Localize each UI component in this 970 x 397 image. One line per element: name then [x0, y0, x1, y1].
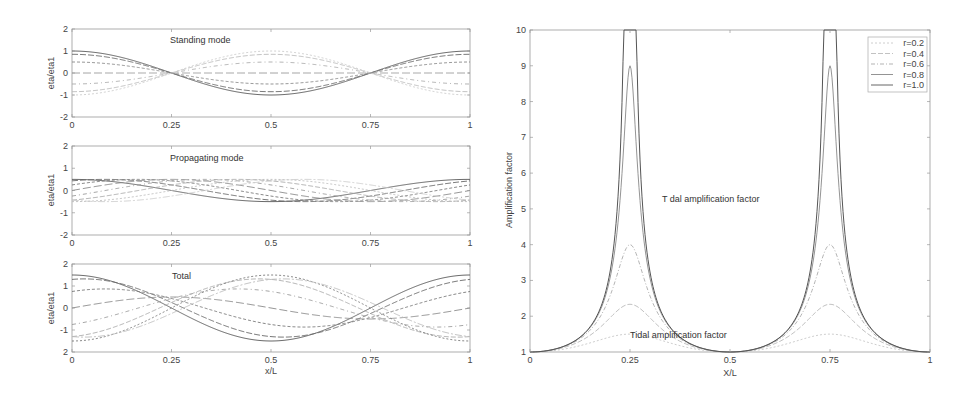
- legend: r=0.2r=0.4r=0.6r=0.8r=1.0: [868, 37, 927, 92]
- y-tick-label: -2: [60, 112, 68, 122]
- total-plot: 00.250.50.7512-1012 Total eta/eta1 x/L: [46, 259, 473, 376]
- x-tick-label: 0.75: [362, 355, 380, 365]
- annotation-total: Total: [172, 271, 191, 281]
- standing-mode-plot: 00.250.50.751-2-1012 Standing mode eta/e…: [46, 24, 473, 130]
- y-tick-label: 1: [63, 163, 68, 173]
- amplification-factor-plot: 00.250.50.75112345678910 T dal amplifica…: [504, 25, 933, 378]
- ylabel-amplification: Amplification factor: [504, 152, 514, 228]
- x-tick-label: 0.5: [265, 355, 278, 365]
- y-tick-label: 2: [63, 24, 68, 34]
- x-tick-label: 0: [527, 355, 532, 365]
- y-tick-label: 4: [521, 240, 526, 250]
- ylabel-total: eta/eta1: [46, 292, 56, 325]
- x-tick-label: 0.5: [265, 238, 278, 248]
- annotation-amplification-upper: T dal amplification factor: [662, 194, 759, 204]
- y-tick-label: 0: [63, 186, 68, 196]
- legend-entry: r=0.2: [903, 38, 924, 48]
- xlabel-amplification: X/L: [723, 368, 737, 378]
- x-tick-label: 0: [69, 238, 74, 248]
- y-tick-label: 7: [521, 132, 526, 142]
- x-tick-label: 0: [69, 120, 74, 130]
- x-tick-label: 1: [467, 238, 472, 248]
- y-tick-label: 2: [63, 141, 68, 151]
- y-tick-label: -1: [60, 208, 68, 218]
- y-tick-label: 0: [63, 303, 68, 313]
- y-tick-label: 6: [521, 168, 526, 178]
- x-tick-label: 0: [69, 355, 74, 365]
- y-tick-label: 5: [521, 204, 526, 214]
- x-tick-label: 0.75: [362, 238, 380, 248]
- annotation-propagating: Propagating mode: [170, 153, 244, 163]
- x-tick-label: 0.25: [163, 120, 181, 130]
- y-tick-label: 3: [521, 275, 526, 285]
- x-tick-label: 0.25: [163, 238, 181, 248]
- y-tick-label: 2: [521, 311, 526, 321]
- y-tick-label: 8: [521, 97, 526, 107]
- legend-entry: r=1.0: [903, 80, 924, 90]
- y-tick-label: 2: [63, 347, 68, 357]
- y-tick-label: 0: [63, 68, 68, 78]
- ylabel-propagating: eta/eta1: [46, 174, 56, 207]
- y-tick-label: -2: [60, 230, 68, 240]
- y-tick-label: 1: [63, 281, 68, 291]
- x-tick-label: 0.75: [821, 355, 839, 365]
- y-tick-label: -1: [60, 90, 68, 100]
- x-tick-label: 1: [927, 355, 932, 365]
- xlabel-total: x/L: [265, 366, 277, 376]
- legend-entry: r=0.4: [903, 49, 924, 59]
- x-tick-label: 0.5: [265, 120, 278, 130]
- y-tick-label: 9: [521, 61, 526, 71]
- x-tick-label: 0.25: [163, 355, 181, 365]
- x-tick-label: 1: [467, 120, 472, 130]
- y-tick-label: 1: [521, 347, 526, 357]
- y-tick-label: -1: [60, 325, 68, 335]
- y-tick-label: 10: [516, 25, 526, 35]
- x-tick-label: 0.5: [724, 355, 737, 365]
- x-tick-label: 0.75: [362, 120, 380, 130]
- y-tick-label: 2: [63, 259, 68, 269]
- legend-entry: r=0.8: [903, 70, 924, 80]
- annotation-standing: Standing mode: [170, 35, 231, 45]
- propagating-mode-plot: 00.250.50.751-2-1012 Propagating mode et…: [46, 141, 473, 248]
- legend-entry: r=0.6: [903, 59, 924, 69]
- figure: 00.250.50.751-2-1012 Standing mode eta/e…: [0, 0, 970, 397]
- y-tick-label: 1: [63, 46, 68, 56]
- x-tick-label: 1: [467, 355, 472, 365]
- ylabel-standing: eta/eta1: [46, 57, 56, 90]
- annotation-amplification-lower: Tidal amplification factor: [630, 330, 727, 340]
- x-tick-label: 0.25: [621, 355, 639, 365]
